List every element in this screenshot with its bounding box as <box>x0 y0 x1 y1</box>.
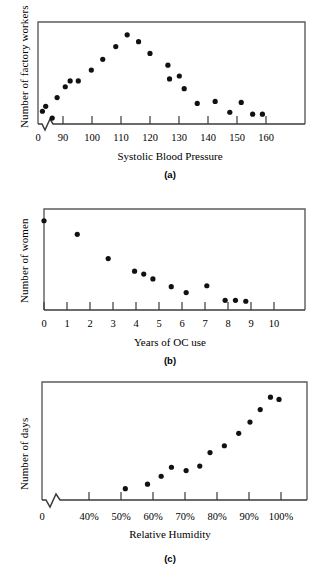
x-axis-ticks-b <box>44 302 274 310</box>
panel-caption-c: (c) <box>164 553 176 564</box>
data-point <box>89 68 94 73</box>
x-tick-label-a-7: 160 <box>258 132 274 143</box>
x-tick-label-b-4: 4 <box>133 318 139 329</box>
x-tick-label-c-6: 100% <box>269 511 294 522</box>
data-point <box>123 486 128 491</box>
data-point <box>41 218 46 223</box>
data-point <box>150 276 155 281</box>
scatter-plot-a: Number of factory workers 0 90 100 110 1… <box>0 0 330 185</box>
data-point <box>233 298 238 303</box>
x-tick-label-zero-a: 0 <box>35 132 40 143</box>
data-point <box>132 269 137 274</box>
data-point <box>145 482 150 487</box>
y-axis-label-c: Number of days <box>18 418 30 490</box>
data-point <box>213 99 218 104</box>
x-axis-ticks-a <box>63 116 266 124</box>
data-point <box>40 109 45 114</box>
x-axis-line-c <box>42 494 307 507</box>
x-tick-label-b-7: 7 <box>202 318 207 329</box>
data-point <box>113 44 118 49</box>
data-point <box>247 419 252 424</box>
x-axis-title-a: Systolic Blood Pressure <box>117 150 222 162</box>
data-point <box>147 51 152 56</box>
data-point <box>182 86 187 91</box>
data-point <box>169 465 174 470</box>
x-tick-label-b-2: 2 <box>87 318 92 329</box>
data-point <box>169 284 174 289</box>
x-tick-label-a-1: 100 <box>84 132 100 143</box>
data-point <box>184 468 189 473</box>
x-axis-ticks-c <box>89 492 281 500</box>
panel-caption-b: (b) <box>164 355 176 366</box>
data-point <box>236 431 241 436</box>
data-point <box>43 104 48 109</box>
data-point <box>222 443 227 448</box>
data-point <box>207 450 212 455</box>
data-point <box>125 32 130 37</box>
data-point <box>184 290 189 295</box>
data-point <box>260 112 265 117</box>
data-point <box>106 256 111 261</box>
x-axis-title-b: Years of OC use <box>134 336 206 348</box>
x-tick-label-c-5: 90% <box>239 511 259 522</box>
x-tick-label-a-3: 120 <box>142 132 158 143</box>
data-point <box>227 110 232 115</box>
x-tick-label-c-3: 70% <box>175 511 195 522</box>
data-point <box>68 78 73 83</box>
chart-panel-c: Number of days 0 40% 50% 60% 70% 80% 90%… <box>0 370 330 583</box>
data-point <box>76 78 81 83</box>
data-point <box>276 397 281 402</box>
x-tick-label-b-1: 1 <box>64 318 69 329</box>
x-tick-label-a-4: 130 <box>171 132 187 143</box>
x-tick-label-c-4: 80% <box>207 511 227 522</box>
x-tick-label-b-8: 8 <box>225 318 230 329</box>
y-axis-label-b: Number of women <box>18 218 30 303</box>
x-tick-label-zero-c: 0 <box>39 511 44 522</box>
data-point <box>159 474 164 479</box>
plot-frame-a <box>38 22 305 124</box>
figure-page: Number of factory workers 0 90 100 110 1… <box>0 0 330 583</box>
data-point <box>141 272 146 277</box>
data-points-c <box>123 395 282 492</box>
plot-frame-c <box>42 382 307 500</box>
data-points-b <box>41 218 248 304</box>
scatter-plot-c: Number of days 0 40% 50% 60% 70% 80% 90%… <box>0 370 330 583</box>
plot-frame-b <box>44 209 305 310</box>
data-point <box>195 101 200 106</box>
x-tick-label-a-0: 90 <box>58 132 69 143</box>
data-point <box>165 63 170 68</box>
x-tick-label-c-0: 40% <box>79 511 99 522</box>
data-point <box>258 407 263 412</box>
data-point <box>100 57 105 62</box>
data-points-a <box>40 32 265 121</box>
x-tick-label-c-2: 60% <box>143 511 163 522</box>
x-tick-label-a-5: 140 <box>200 132 216 143</box>
panel-caption-a: (a) <box>164 169 176 180</box>
data-point <box>250 112 255 117</box>
x-tick-label-b-5: 5 <box>156 318 161 329</box>
data-point <box>268 395 273 400</box>
x-tick-label-b-10: 10 <box>269 318 280 329</box>
data-point <box>167 76 172 81</box>
data-point <box>63 84 68 89</box>
x-tick-label-b-6: 6 <box>179 318 184 329</box>
data-point <box>55 95 60 100</box>
x-axis-line-a <box>38 119 305 130</box>
x-tick-label-a-6: 150 <box>229 132 245 143</box>
data-point <box>197 464 202 469</box>
x-tick-label-b-3: 3 <box>110 318 115 329</box>
chart-panel-b: Number of women 0 1 2 3 4 5 6 <box>0 185 330 370</box>
y-axis-label-a: Number of factory workers <box>18 5 30 128</box>
x-tick-label-b-9: 9 <box>248 318 253 329</box>
data-point <box>243 299 248 304</box>
x-tick-label-a-2: 110 <box>113 132 128 143</box>
x-axis-title-c: Relative Humidity <box>129 528 211 540</box>
data-point <box>177 73 182 78</box>
data-point <box>204 283 209 288</box>
data-point <box>223 298 228 303</box>
data-point <box>50 116 55 121</box>
data-point <box>239 100 244 105</box>
data-point <box>136 39 141 44</box>
chart-panel-a: Number of factory workers 0 90 100 110 1… <box>0 0 330 185</box>
x-tick-label-c-1: 50% <box>111 511 131 522</box>
